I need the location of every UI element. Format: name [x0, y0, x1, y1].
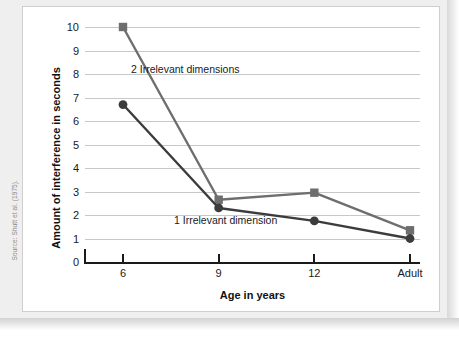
figure-shadow-bottom: [0, 318, 459, 330]
x-axis-tick-label: Adult: [397, 267, 422, 279]
x-axis-title: Age in years: [85, 289, 420, 301]
y-axis-tick-label: 1: [73, 233, 79, 245]
x-axis-tick-label: 6: [120, 267, 126, 279]
figure-root: Source: Shutt et al. (1975). Amount of i…: [0, 0, 459, 344]
annotation-one-irrelevant-dimension: 1 Irrelevant dimension: [174, 214, 277, 226]
chart-panel: Amount of interference in seconds 012345…: [22, 6, 440, 312]
series-line-1: [123, 27, 410, 230]
data-point-marker: [214, 196, 222, 204]
x-axis-tick-label: 12: [308, 267, 320, 279]
data-point-marker: [119, 100, 128, 109]
x-axis-line: [85, 262, 420, 264]
y-axis-tick-label: 10: [67, 21, 79, 33]
plot-area: 012345678910 6912Adult 2 Irrelevant dime…: [85, 27, 420, 262]
y-axis-tick-label: 2: [73, 209, 79, 221]
source-credit: Source: Shutt et al. (1975).: [11, 161, 18, 261]
figure-shadow-right: [447, 0, 459, 330]
data-point-marker: [214, 204, 223, 213]
data-point-marker: [310, 216, 319, 225]
annotation-two-irrelevant-dimensions: 2 Irrelevant dimensions: [131, 63, 240, 75]
data-point-marker: [406, 234, 415, 243]
y-axis-tick-label: 9: [73, 45, 79, 57]
y-axis-tick-label: 6: [73, 115, 79, 127]
y-axis-title: Amount of interference in seconds: [50, 48, 62, 268]
y-axis-tick-label: 3: [73, 186, 79, 198]
x-axis-tick-label: 9: [216, 267, 222, 279]
y-axis-tick-label: 7: [73, 92, 79, 104]
y-axis-tick-label: 4: [73, 162, 79, 174]
data-point-marker: [310, 188, 318, 196]
y-axis-tick-label: 0: [73, 256, 79, 268]
y-axis-tick-label: 5: [73, 139, 79, 151]
data-point-marker: [119, 23, 127, 31]
data-point-marker: [406, 226, 414, 234]
y-axis-tick-label: 8: [73, 68, 79, 80]
